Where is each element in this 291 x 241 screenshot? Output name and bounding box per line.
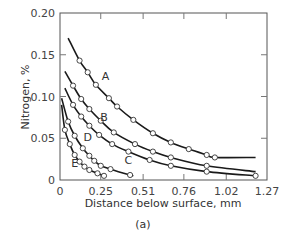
nitrogen-profile-chart: 00.250.510.761.021.2700.050.100.150.20 A… — [0, 0, 291, 241]
marker-c — [253, 173, 258, 178]
marker-b — [168, 155, 173, 160]
marker-c — [110, 141, 115, 146]
marker-a — [204, 152, 209, 157]
marker-b — [204, 163, 209, 168]
y-tick-label: 0 — [48, 174, 55, 187]
marker-e — [101, 173, 106, 178]
marker-c — [87, 123, 92, 128]
marker-b — [111, 130, 116, 135]
y-axis-title: Nitrogen, % — [19, 65, 32, 130]
marker-d — [108, 167, 113, 172]
marker-b — [70, 83, 75, 88]
marker-e — [82, 164, 87, 169]
marker-a — [131, 117, 136, 122]
y-tick-label: 0.15 — [31, 49, 56, 62]
marker-d — [98, 163, 103, 168]
marker-e — [62, 127, 67, 132]
marker-d — [87, 153, 92, 158]
marker-a — [168, 140, 173, 145]
marker-a — [212, 155, 217, 160]
marker-e — [95, 171, 100, 176]
figure-subtitle: (a) — [135, 218, 150, 231]
curve-label-b: B — [100, 111, 108, 124]
axis-ticks: 00.250.510.761.021.2700.050.100.150.20 — [31, 7, 280, 198]
marker-e — [87, 167, 92, 172]
x-tick-label: 0 — [57, 185, 64, 198]
marker-c — [147, 157, 152, 162]
curve-label-c: C — [125, 154, 133, 167]
x-tick-label: 1.27 — [255, 185, 280, 198]
data-markers — [62, 58, 258, 178]
marker-d — [127, 172, 132, 177]
marker-b — [79, 96, 84, 101]
y-tick-label: 0.20 — [31, 7, 56, 20]
marker-d — [92, 158, 97, 163]
marker-c — [70, 102, 75, 107]
curve-label-a: A — [102, 70, 110, 83]
marker-d — [66, 119, 71, 124]
marker-a — [106, 96, 111, 101]
marker-c — [168, 163, 173, 168]
curve-labels: ABCDE — [71, 70, 132, 171]
marker-b — [132, 141, 137, 146]
marker-c — [97, 132, 102, 137]
marker-b — [87, 106, 92, 111]
marker-a — [85, 70, 90, 75]
curve-label-d: D — [83, 131, 91, 144]
curve-label-e: E — [71, 157, 78, 170]
marker-e — [67, 141, 72, 146]
curve-a — [68, 38, 255, 158]
marker-b — [150, 149, 155, 154]
marker-c — [204, 169, 209, 174]
y-tick-label: 0.10 — [31, 91, 56, 104]
x-axis-title: Distance below surface, mm — [85, 197, 242, 210]
y-tick-label: 0.05 — [31, 132, 56, 145]
marker-c — [79, 114, 84, 119]
marker-d — [80, 146, 85, 151]
marker-a — [114, 104, 119, 109]
marker-a — [77, 58, 82, 63]
marker-a — [93, 82, 98, 87]
marker-a — [150, 131, 155, 136]
marker-a — [186, 147, 191, 152]
marker-d — [72, 133, 77, 138]
